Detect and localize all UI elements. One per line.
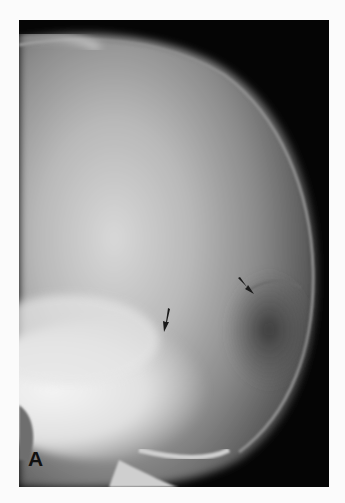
radiograph-image: A <box>19 20 329 487</box>
skull-xray <box>19 20 329 487</box>
panel-label: A <box>28 448 43 469</box>
